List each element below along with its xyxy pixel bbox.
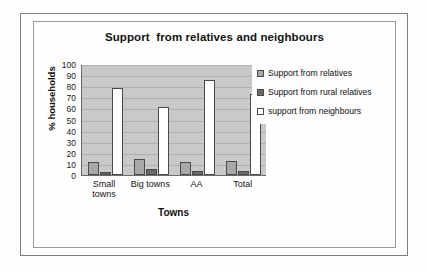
y-axis-tick-label: 80 — [52, 83, 76, 91]
x-axis-tick-label: Total — [220, 179, 266, 189]
bar — [146, 169, 157, 175]
bar — [88, 162, 99, 175]
bar — [180, 162, 191, 175]
x-axis-tick-line: towns — [81, 189, 127, 199]
legend-label: support from neighbours — [268, 106, 361, 116]
y-axis-tick-label: 10 — [52, 161, 76, 169]
legend-swatch-icon — [257, 108, 264, 115]
y-axis-tick-label: 30 — [52, 139, 76, 147]
legend-swatch-icon — [257, 70, 264, 77]
x-axis-title: Towns — [81, 207, 266, 218]
chart-title: Support from relatives and neighbours — [33, 31, 396, 43]
bar — [226, 161, 237, 175]
legend-item: support from neighbours — [257, 106, 378, 116]
legend-item: Support from relatives — [257, 68, 378, 78]
x-axis-tick-line: Big towns — [127, 179, 173, 189]
bar — [100, 172, 111, 175]
y-axis-tick-label: 90 — [52, 72, 76, 80]
x-axis-tick-label: Smalltowns — [81, 179, 127, 199]
bar — [192, 171, 203, 175]
legend-label: Support from rural relatives — [268, 87, 372, 97]
bar — [238, 171, 249, 175]
bar-group — [128, 65, 174, 175]
legend-item: Support from rural relatives — [257, 87, 378, 97]
y-axis-ticks: 1009080706050403020100 — [49, 65, 76, 176]
y-axis-tick-label: 70 — [52, 94, 76, 102]
plot-area — [81, 65, 266, 176]
bar — [134, 159, 145, 175]
chart-legend: Support from relativesSupport from rural… — [252, 60, 382, 124]
x-axis-tick-line: AA — [174, 179, 220, 189]
bar-group — [175, 65, 221, 175]
y-axis-tick-label: 100 — [52, 61, 76, 69]
y-axis-tick-label: 60 — [52, 105, 76, 113]
x-axis-tick-line: Small — [81, 179, 127, 189]
y-axis-tick-label: 20 — [52, 150, 76, 158]
y-axis-tick-label: 0 — [52, 172, 76, 180]
bar — [204, 80, 215, 175]
bars-layer — [82, 65, 266, 175]
legend-label: Support from relatives — [268, 68, 352, 78]
legend-swatch-icon — [257, 89, 264, 96]
x-axis-tick-line: Total — [220, 179, 266, 189]
y-axis-tick-label: 40 — [52, 128, 76, 136]
bar — [112, 88, 123, 175]
x-axis-ticks: SmalltownsBig townsAATotal — [81, 179, 266, 207]
bar-group — [82, 65, 128, 175]
chart-screenshot: Support from relatives and neighbours % … — [0, 0, 427, 272]
x-axis-tick-label: Big towns — [127, 179, 173, 189]
bar — [158, 107, 169, 175]
x-axis-tick-label: AA — [174, 179, 220, 189]
y-axis-tick-label: 50 — [52, 117, 76, 125]
